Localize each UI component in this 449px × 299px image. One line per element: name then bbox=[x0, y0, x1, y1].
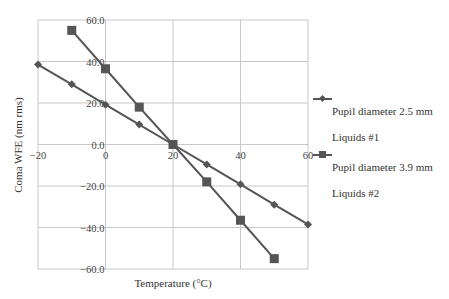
square-marker-icon bbox=[236, 216, 245, 225]
legend-item-series-1: Pupil diameter 2.5 mm Liquids #1 bbox=[313, 92, 449, 144]
y-axis-label: Coma WFE (nm rms) bbox=[12, 97, 25, 193]
x-tick-label: −20 bbox=[30, 150, 46, 161]
x-tick-label: 40 bbox=[235, 150, 246, 161]
square-marker-icon bbox=[270, 254, 279, 263]
diamond-marker-icon bbox=[313, 92, 332, 105]
legend-label: Pupil diameter 2.5 mm bbox=[332, 105, 433, 117]
x-tick-label: 20 bbox=[168, 150, 179, 161]
legend-sublabel: Liquids #1 bbox=[332, 131, 379, 143]
square-marker-icon bbox=[169, 140, 178, 149]
square-marker-icon bbox=[135, 103, 144, 112]
y-tick-label: −40.0 bbox=[80, 223, 104, 234]
x-tick-label: 60 bbox=[303, 150, 314, 161]
legend-sublabel: Liquids #2 bbox=[332, 187, 379, 199]
y-tick-label: −20.0 bbox=[80, 181, 104, 192]
x-tick-label: 0 bbox=[103, 150, 108, 161]
x-axis-label: Temperature (°C) bbox=[134, 277, 212, 290]
y-tick-label: 60.0 bbox=[86, 15, 104, 26]
legend: Pupil diameter 2.5 mm Liquids #1 Pupil d… bbox=[313, 92, 449, 204]
square-marker-icon bbox=[202, 177, 211, 186]
x-axis-ticks: −200204060 bbox=[30, 150, 313, 161]
square-marker-icon bbox=[313, 148, 332, 161]
square-marker-icon bbox=[101, 64, 110, 73]
legend-item-series-2: Pupil diameter 3.9 mm Liquids #2 bbox=[313, 148, 449, 200]
legend-label: Pupil diameter 3.9 mm bbox=[332, 161, 433, 173]
square-marker-icon bbox=[67, 26, 76, 35]
y-tick-label: −60.0 bbox=[80, 264, 104, 275]
